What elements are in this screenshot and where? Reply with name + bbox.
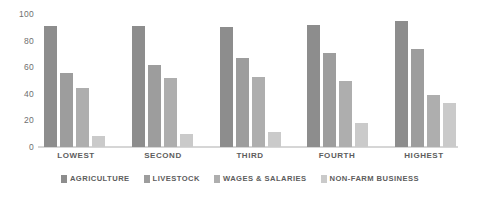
y-axis-tick-20: 20 bbox=[24, 115, 34, 125]
legend-swatch-icon bbox=[214, 175, 220, 183]
legend-item-agriculture[interactable]: AGRICULTURE bbox=[61, 174, 130, 183]
legend-label: LIVESTOCK bbox=[153, 174, 200, 183]
bar-highest-non-farm-business[interactable] bbox=[443, 103, 456, 147]
bar-fourth-livestock[interactable] bbox=[323, 53, 336, 147]
legend-swatch-icon bbox=[61, 175, 67, 183]
bar-third-agriculture[interactable] bbox=[220, 27, 233, 147]
x-axis-label-lowest: LOWEST bbox=[44, 151, 108, 160]
bar-highest-livestock[interactable] bbox=[411, 49, 424, 147]
bar-second-livestock[interactable] bbox=[148, 65, 161, 147]
legend-swatch-icon bbox=[321, 175, 327, 183]
y-axis-tick-0: 0 bbox=[29, 142, 34, 152]
x-axis-label-fourth: FOURTH bbox=[305, 151, 369, 160]
legend-item-non-farm-business[interactable]: NON-FARM BUSINESS bbox=[321, 174, 420, 183]
x-axis-label-second: SECOND bbox=[131, 151, 195, 160]
chart-legend: AGRICULTURELIVESTOCKWAGES & SALARIESNON-… bbox=[0, 174, 480, 183]
bar-second-agriculture[interactable] bbox=[132, 26, 145, 147]
y-axis-tick-40: 40 bbox=[24, 89, 34, 99]
bar-fourth-agriculture[interactable] bbox=[307, 25, 320, 147]
y-axis: 020406080100 bbox=[0, 14, 40, 147]
bar-group-lowest bbox=[44, 14, 105, 147]
bar-lowest-non-farm-business[interactable] bbox=[92, 136, 105, 147]
bar-lowest-livestock[interactable] bbox=[60, 73, 73, 147]
legend-label: NON-FARM BUSINESS bbox=[330, 174, 420, 183]
legend-label: AGRICULTURE bbox=[70, 174, 130, 183]
bar-third-non-farm-business[interactable] bbox=[268, 132, 281, 147]
x-axis-label-highest: HIGHEST bbox=[392, 151, 456, 160]
legend-item-wages-salaries[interactable]: WAGES & SALARIES bbox=[214, 174, 307, 183]
bar-highest-wages-salaries[interactable] bbox=[427, 95, 440, 147]
bar-fourth-non-farm-business[interactable] bbox=[355, 123, 368, 147]
bar-lowest-agriculture[interactable] bbox=[44, 26, 57, 147]
bar-lowest-wages-salaries[interactable] bbox=[76, 88, 89, 147]
bar-second-wages-salaries[interactable] bbox=[164, 78, 177, 147]
bar-third-livestock[interactable] bbox=[236, 58, 249, 147]
x-axis-labels: LOWESTSECONDTHIRDFOURTHHIGHEST bbox=[44, 151, 456, 160]
bar-highest-agriculture[interactable] bbox=[395, 21, 408, 147]
legend-label: WAGES & SALARIES bbox=[223, 174, 307, 183]
x-axis-label-third: THIRD bbox=[218, 151, 282, 160]
bar-chart: 020406080100 LOWESTSECONDTHIRDFOURTHHIGH… bbox=[0, 0, 480, 197]
bar-third-wages-salaries[interactable] bbox=[252, 77, 265, 147]
legend-item-livestock[interactable]: LIVESTOCK bbox=[144, 174, 200, 183]
legend-swatch-icon bbox=[144, 175, 150, 183]
y-axis-tick-60: 60 bbox=[24, 62, 34, 72]
bar-second-non-farm-business[interactable] bbox=[180, 134, 193, 147]
bar-fourth-wages-salaries[interactable] bbox=[339, 81, 352, 148]
bar-group-highest bbox=[395, 14, 456, 147]
bar-group-second bbox=[132, 14, 193, 147]
bar-group-fourth bbox=[307, 14, 368, 147]
bar-group-third bbox=[220, 14, 281, 147]
y-axis-tick-80: 80 bbox=[24, 36, 34, 46]
bar-groups bbox=[44, 14, 456, 147]
y-axis-tick-100: 100 bbox=[19, 9, 34, 19]
